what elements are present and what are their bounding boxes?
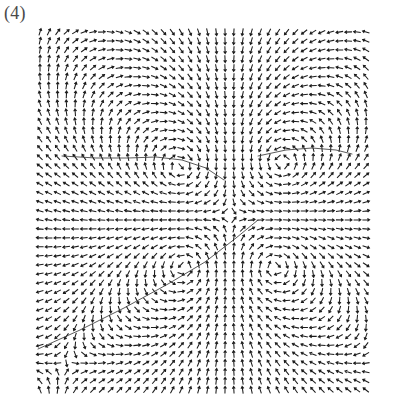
field-arrow	[302, 279, 305, 286]
field-arrow	[206, 136, 209, 143]
field-arrow	[82, 145, 86, 151]
field-arrow	[327, 191, 334, 194]
field-arrow	[160, 137, 167, 140]
field-arrow	[224, 377, 227, 384]
field-arrow	[354, 57, 360, 61]
field-arrow	[107, 75, 113, 79]
field-arrow	[301, 76, 308, 79]
field-arrow	[293, 370, 298, 375]
field-arrow	[258, 136, 262, 142]
field-arrow	[232, 46, 235, 53]
field-arrow	[125, 361, 132, 364]
field-arrow	[318, 344, 325, 347]
field-arrow	[56, 109, 59, 116]
field-arrow	[197, 172, 200, 179]
field-arrow	[250, 181, 254, 187]
field-arrow	[107, 245, 114, 248]
field-arrow	[151, 352, 157, 356]
field-arrow	[356, 306, 359, 313]
field-arrow	[320, 163, 324, 169]
field-arrow	[98, 31, 105, 34]
field-arrow	[98, 200, 105, 203]
field-arrow	[224, 369, 227, 376]
field-arrow	[134, 182, 139, 187]
field-arrow	[250, 252, 253, 259]
field-arrow	[250, 145, 253, 152]
field-arrow	[319, 182, 325, 186]
field-arrow	[224, 64, 227, 71]
field-arrow	[187, 92, 192, 97]
field-arrow	[258, 316, 262, 322]
field-arrow	[250, 100, 253, 107]
field-arrow	[161, 146, 166, 151]
field-arrow	[73, 298, 78, 303]
field-arrow	[224, 333, 227, 340]
field-arrow	[56, 127, 60, 133]
field-arrow	[177, 147, 184, 150]
field-arrow	[195, 210, 202, 213]
field-arrow	[274, 273, 281, 276]
field-arrow	[160, 66, 166, 70]
field-arrow	[196, 119, 200, 125]
field-arrow	[214, 190, 218, 196]
field-arrow	[151, 245, 157, 249]
field-arrow	[267, 92, 272, 98]
field-arrow	[38, 91, 41, 98]
field-arrow	[125, 66, 132, 69]
field-arrow	[336, 228, 343, 231]
field-arrow	[133, 209, 140, 212]
field-arrow	[125, 110, 130, 115]
field-arrow	[354, 30, 361, 33]
field-arrow	[64, 164, 69, 169]
field-arrow	[117, 110, 121, 116]
field-arrow	[232, 315, 235, 322]
field-arrow	[232, 360, 235, 367]
field-arrow	[232, 288, 235, 295]
field-arrow	[337, 101, 342, 106]
field-arrow	[364, 145, 367, 152]
field-arrow	[319, 30, 326, 33]
field-arrow	[292, 111, 299, 114]
field-arrow	[224, 55, 227, 62]
field-arrow	[206, 342, 209, 349]
field-arrow	[206, 288, 209, 295]
field-arrow	[354, 343, 360, 347]
field-arrow	[91, 297, 95, 303]
field-arrow	[224, 109, 227, 116]
field-arrow	[284, 155, 290, 160]
field-arrow	[189, 387, 192, 394]
field-arrow	[37, 308, 44, 311]
field-arrow	[133, 58, 140, 61]
field-arrow	[336, 237, 343, 240]
field-arrow	[267, 173, 272, 178]
field-arrow	[160, 84, 167, 87]
field-arrow	[250, 297, 254, 303]
field-arrow	[81, 254, 88, 257]
field-arrow	[283, 111, 290, 114]
field-arrow	[347, 279, 351, 285]
field-arrow	[39, 37, 42, 44]
field-arrow	[36, 263, 43, 266]
field-arrow	[178, 120, 184, 124]
field-arrow	[99, 173, 104, 178]
field-arrow	[188, 342, 192, 348]
field-arrow	[355, 333, 359, 339]
field-arrow	[179, 65, 184, 70]
field-arrow	[47, 100, 50, 107]
field-arrow	[36, 254, 43, 257]
field-arrow	[241, 288, 244, 295]
field-arrow	[142, 228, 149, 231]
field-arrow	[292, 334, 299, 337]
field-arrow	[320, 297, 324, 303]
field-arrow	[125, 191, 131, 195]
field-arrow	[134, 200, 141, 203]
field-arrow	[82, 315, 85, 322]
field-arrow	[249, 244, 253, 250]
field-arrow	[125, 58, 132, 61]
field-arrow	[284, 343, 290, 347]
field-arrow	[336, 245, 342, 249]
field-arrow	[310, 67, 317, 70]
field-arrow	[65, 64, 68, 71]
field-arrow	[100, 280, 104, 286]
field-arrow	[160, 102, 167, 105]
